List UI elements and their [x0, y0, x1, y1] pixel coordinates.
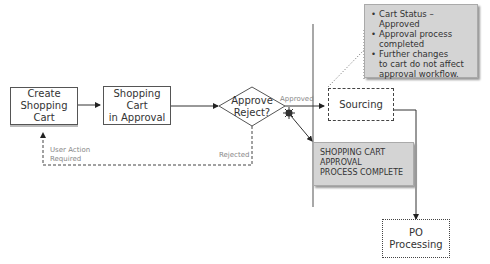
- user-action-line-2: Required: [50, 155, 90, 164]
- create-cart-label-1: Create: [27, 88, 60, 100]
- complete-line-3: PROCESS COMPLETE: [320, 168, 407, 178]
- create-shopping-cart-node: Create Shopping Cart: [10, 87, 78, 125]
- decision-label-2: Reject?: [222, 107, 282, 119]
- note-item-status: Cart Status – Approved: [371, 9, 473, 29]
- event-star-icon: [283, 107, 295, 119]
- shopping-cart-in-approval-node: Shopping Cart in Approval: [103, 86, 171, 125]
- note-item-changes: Further changesto cart do not affectappr…: [371, 49, 473, 79]
- rejected-edge-label: Rejected: [219, 151, 249, 160]
- status-note-list: Cart Status – Approved Approval processc…: [371, 9, 473, 79]
- create-cart-label-2: Shopping Cart: [11, 100, 77, 124]
- process-complete-box: SHOPPING CART APPROVAL PROCESS COMPLETE: [313, 142, 414, 186]
- po-processing-label: PO Processing: [383, 227, 449, 251]
- arrow-to-complete: [291, 116, 312, 141]
- user-action-line-1: User Action: [50, 146, 90, 155]
- user-action-label: User Action Required: [50, 146, 90, 164]
- status-note-box: Cart Status – Approved Approval processc…: [364, 4, 478, 78]
- approval-label-2: in Approval: [109, 112, 166, 124]
- decision-label-1: Approve: [222, 95, 282, 107]
- approval-label-1: Shopping Cart: [104, 88, 170, 112]
- complete-line-1: SHOPPING CART: [320, 148, 407, 158]
- sourcing-label: Sourcing: [339, 99, 383, 111]
- po-processing-node: PO Processing: [382, 219, 450, 258]
- sourcing-node: Sourcing: [328, 88, 394, 121]
- complete-line-2: APPROVAL: [320, 158, 407, 168]
- approved-edge-label: Approved: [280, 95, 314, 104]
- note-item-approval: Approval processcompleted: [371, 29, 473, 49]
- decision-label: Approve Reject?: [222, 95, 282, 119]
- note-callout-line: [328, 50, 364, 87]
